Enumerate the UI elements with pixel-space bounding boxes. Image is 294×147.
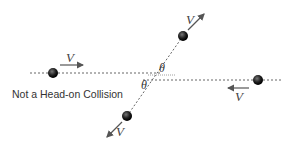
v-top-label: V	[186, 12, 196, 27]
theta-lower-label: θ	[141, 78, 147, 92]
left-ball	[48, 68, 58, 78]
theta-upper-label: θ	[159, 61, 165, 75]
right-ball	[253, 75, 263, 85]
v-left-label: V	[66, 50, 76, 65]
caption: Not a Head-on Collision	[12, 88, 123, 100]
v-right-label: V	[235, 89, 245, 104]
v-bottom-label: V	[116, 124, 126, 139]
top-ball	[178, 31, 188, 41]
collision-diagram: V V V V θ θ	[0, 0, 294, 147]
bottom-ball	[122, 111, 132, 121]
diagonal-path-line	[127, 36, 183, 116]
